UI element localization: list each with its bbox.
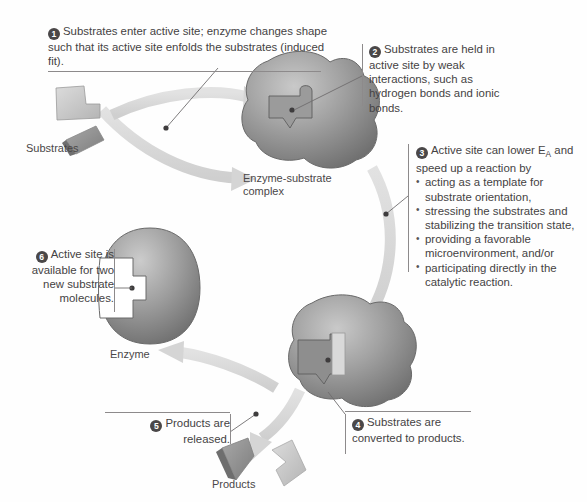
callout-text-2: Substrates are held in active site by we…: [369, 43, 499, 114]
cycle-arrow-regenerate-enzyme: [158, 341, 276, 388]
step-number-badge-5: 5: [150, 420, 162, 432]
callout-text-1: Substrates enter active site; enzyme cha…: [48, 25, 327, 67]
callout-step-3: 3Active site can lower EA and speed up a…: [408, 143, 587, 289]
callout-step-6: 6Active site is available for two new su…: [14, 247, 121, 306]
caption-enzyme: Enzyme: [110, 348, 150, 361]
caption-complex-line2: complex: [243, 185, 353, 198]
substrate-piece-light: [56, 86, 100, 120]
diagram-canvas: 1Substrates enter active site; enzyme ch…: [0, 0, 587, 502]
step-number-badge-3: 3: [416, 147, 428, 159]
caption-complex-line1: Enzyme-substrate: [243, 172, 353, 185]
caption-enzyme-substrate-complex: Enzyme-substrate complex: [243, 172, 353, 199]
callout-step-1: 1Substrates enter active site; enzyme ch…: [48, 24, 338, 75]
callout-text-5: Products are released.: [165, 417, 230, 445]
callout-3-bullet: participating directly in the catalytic …: [416, 261, 587, 289]
callout-underline-1: [48, 71, 321, 72]
product-piece-light: [272, 440, 306, 486]
callout-underline-5: [105, 412, 230, 413]
cycle-arrow-substrates-in: [102, 110, 256, 191]
callout-step-4: 4Substrates are converted to products.: [345, 411, 487, 445]
callout-3-bullet: acting as a template for substrate orien…: [416, 175, 587, 203]
callout-text-4: Substrates are converted to products.: [352, 416, 465, 444]
callout-underline-4: [345, 411, 471, 412]
callout-3-bullet: providing a favorable microenvironment, …: [416, 232, 587, 260]
callout-step-2: 2Substrates are held in active site by w…: [362, 42, 519, 115]
caption-substrates: Substrates: [26, 142, 79, 155]
callout-step-5: 5Products are released.: [105, 412, 237, 446]
caption-products: Products: [212, 478, 255, 491]
step-number-badge-6: 6: [36, 251, 48, 263]
callout-text-3-lead: Active site can lower E: [431, 144, 546, 156]
callout-3-bullet: stressing the substrates and stabilizing…: [416, 204, 587, 232]
step-number-badge-2: 2: [369, 46, 381, 58]
enzyme-products-blob: [289, 295, 417, 407]
step-number-badge-1: 1: [48, 28, 60, 40]
step-number-badge-4: 4: [352, 419, 364, 431]
callout-3-bullet-list: acting as a template for substrate orien…: [416, 175, 587, 289]
